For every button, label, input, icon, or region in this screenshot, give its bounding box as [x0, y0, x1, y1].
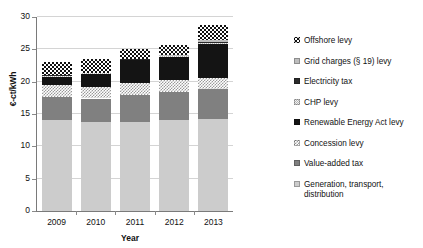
legend-swatch-icon	[294, 37, 300, 43]
bar-segment	[198, 89, 228, 119]
legend-item: Grid charges (§ 19) levy	[294, 57, 422, 78]
bar-segment	[42, 62, 72, 75]
legend-item: Offshore levy	[294, 36, 422, 57]
chart-legend: Offshore levyGrid charges (§ 19) levyEle…	[294, 36, 422, 200]
x-tick-label: 2011	[113, 217, 157, 227]
bar-segment	[198, 78, 228, 90]
legend-swatch-icon	[294, 58, 300, 64]
legend-item: Concession levy	[294, 139, 422, 160]
bar-segment	[120, 83, 150, 95]
y-tick-label: 15	[8, 108, 30, 118]
legend-item: Generation, transport, distribution	[294, 180, 422, 201]
legend-label: Offshore levy	[304, 36, 352, 46]
y-tick-label: 30	[8, 11, 30, 21]
x-tick-mark	[115, 211, 116, 215]
x-tick-mark	[194, 211, 195, 215]
y-tick-mark	[32, 17, 36, 18]
bar-segment	[81, 59, 111, 73]
y-tick-mark	[32, 114, 36, 115]
x-tick-label: 2012	[152, 217, 196, 227]
legend-label: Concession levy	[304, 139, 364, 149]
x-tick-label: 2009	[35, 217, 79, 227]
legend-label: Renewable Energy Act levy	[304, 118, 404, 128]
bar-segment	[159, 92, 189, 120]
bar-segment	[120, 49, 150, 59]
x-tick-label: 2013	[191, 217, 235, 227]
x-tick-mark	[155, 211, 156, 215]
y-tick-mark	[32, 211, 36, 212]
bar-segment	[198, 44, 228, 78]
legend-swatch-icon	[294, 119, 300, 125]
bar-segment	[42, 85, 72, 97]
y-tick-mark	[32, 179, 36, 180]
legend-label: Value-added tax	[304, 159, 363, 169]
x-axis-line	[36, 211, 233, 212]
bar-segment	[120, 122, 150, 211]
bar-segment	[81, 87, 111, 99]
bar-segment	[198, 40, 228, 42]
bar-column	[81, 17, 111, 211]
y-tick-label: 0	[8, 205, 30, 215]
legend-swatch-icon	[294, 99, 300, 105]
bar-segment	[159, 120, 189, 211]
legend-item: Renewable Energy Act levy	[294, 118, 422, 139]
legend-item: CHP levy	[294, 98, 422, 119]
bar-segment	[42, 97, 72, 121]
y-tick-label: 25	[8, 43, 30, 53]
y-tick-mark	[32, 146, 36, 147]
x-tick-label: 2010	[74, 217, 118, 227]
legend-label: Electricity tax	[304, 77, 352, 87]
bar-column	[120, 17, 150, 211]
bar-segment	[42, 120, 72, 211]
bar-segment	[81, 99, 111, 122]
y-tick-label: 10	[8, 140, 30, 150]
bar-segment	[81, 74, 111, 87]
legend-item: Electricity tax	[294, 77, 422, 98]
legend-swatch-icon	[294, 181, 300, 187]
bar-segment	[159, 55, 189, 56]
bar-segment	[198, 25, 228, 41]
legend-swatch-icon	[294, 160, 300, 166]
bar-column	[42, 17, 72, 211]
bar-segment	[159, 80, 189, 92]
bar-segment	[198, 119, 228, 211]
bar-segment	[159, 45, 189, 55]
x-axis-label: Year	[35, 233, 225, 243]
legend-item: Value-added tax	[294, 159, 422, 180]
legend-label: CHP levy	[304, 98, 338, 108]
chart-root: €-ct/kWh 051015202530 200920102011201220…	[0, 0, 423, 248]
bar-column	[159, 17, 189, 211]
y-tick-mark	[32, 49, 36, 50]
bar-segment	[159, 57, 189, 80]
y-tick-label: 20	[8, 76, 30, 86]
bar-segment	[120, 60, 150, 83]
bar-segment	[120, 95, 150, 123]
legend-label: Grid charges (§ 19) levy	[304, 57, 391, 67]
bar-column	[198, 17, 228, 211]
bar-segment	[81, 122, 111, 211]
plot-area	[37, 17, 233, 211]
y-tick-mark	[32, 82, 36, 83]
bar-segment	[42, 77, 72, 85]
legend-swatch-icon	[294, 140, 300, 146]
legend-label: Generation, transport, distribution	[304, 180, 384, 200]
x-tick-mark	[76, 211, 77, 215]
y-tick-label: 5	[8, 173, 30, 183]
legend-swatch-icon	[294, 78, 300, 84]
